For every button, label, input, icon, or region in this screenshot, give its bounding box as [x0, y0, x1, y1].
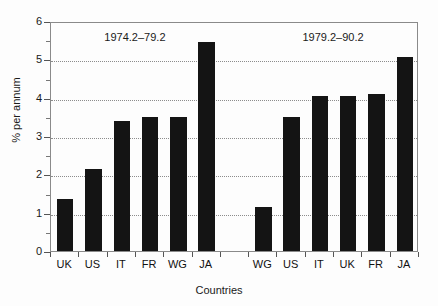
x-axis-tick-label: JA	[186, 258, 226, 271]
x-axis-tick-labels: UKUSITFRWGJAWGUSITUKFRJA	[0, 0, 438, 306]
bar-chart: 0123456 % per annum 1974.2–79.21979.2–90…	[0, 0, 438, 306]
x-axis-title: Countries	[0, 284, 438, 297]
x-axis-tick-label: JA	[384, 258, 424, 271]
